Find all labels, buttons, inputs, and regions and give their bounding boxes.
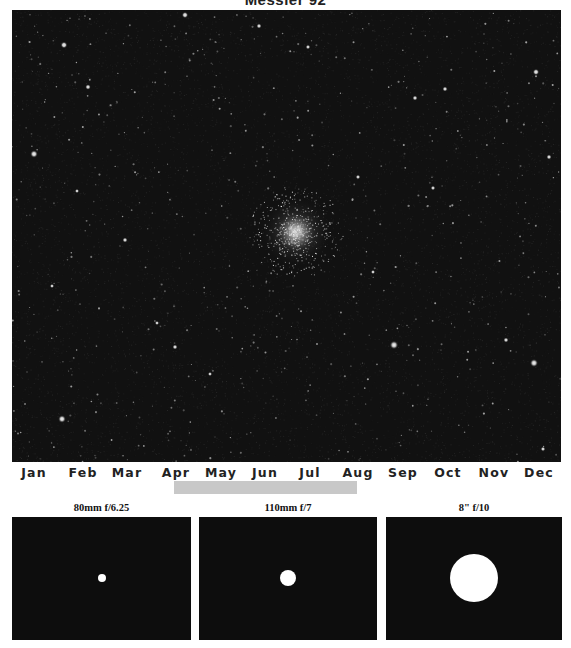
month-axis: Jan Feb Mar Apr May Jun Jul Aug Sep Oct … [0, 463, 571, 481]
object-disc [450, 554, 498, 602]
eyepiece-view [12, 517, 191, 640]
telescope-label: 8" f/10 [386, 502, 562, 513]
month-label: May [205, 465, 237, 480]
month-label: Jun [252, 465, 278, 480]
telescope-label: 110mm f/7 [199, 502, 377, 513]
month-label: Aug [342, 465, 373, 480]
month-label: Feb [68, 465, 97, 480]
object-disc [280, 570, 296, 586]
month-label: Dec [524, 465, 554, 480]
month-label: Mar [112, 465, 143, 480]
object-disc [98, 574, 106, 582]
telescope-label: 80mm f/6.25 [12, 502, 191, 513]
month-label: Jul [299, 465, 320, 480]
eyepiece-view [386, 517, 562, 640]
object-title: Messier 92 [0, 0, 571, 8]
visibility-bar [174, 481, 357, 494]
month-label: Apr [162, 465, 190, 480]
eyepiece-view [199, 517, 377, 640]
month-label: Jan [21, 465, 47, 480]
month-label: Nov [479, 465, 510, 480]
star-field [12, 10, 561, 462]
sky-image [12, 10, 561, 462]
month-label: Oct [434, 465, 462, 480]
month-label: Sep [388, 465, 418, 480]
